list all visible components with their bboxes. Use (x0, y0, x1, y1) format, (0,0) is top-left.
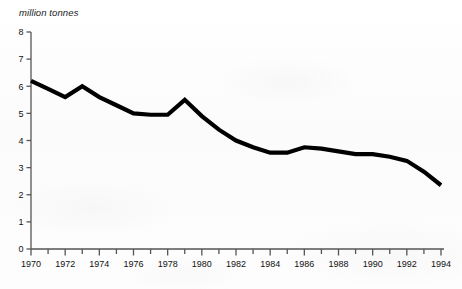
x-tick-label: 1988 (328, 259, 348, 269)
series-line (31, 81, 441, 185)
x-tick-label: 1990 (363, 259, 383, 269)
chart-container: million tonnes 012345678 197019721974197… (0, 0, 462, 289)
y-tick-label: 6 (18, 82, 23, 92)
y-tick-label: 4 (18, 136, 23, 146)
data-series-line (31, 81, 441, 185)
y-tick-label: 3 (18, 163, 23, 173)
chart-plot-area: 012345678 197019721974197619781980198219… (0, 0, 462, 289)
y-tick-label: 7 (18, 54, 23, 64)
y-tick-label: 8 (18, 27, 23, 37)
x-tick-label: 1980 (192, 259, 212, 269)
x-tick-label: 1982 (226, 259, 246, 269)
x-tick-label: 1976 (123, 259, 143, 269)
y-tick-label: 1 (18, 217, 23, 227)
x-tick-label: 1992 (397, 259, 417, 269)
x-tick-label: 1994 (431, 259, 451, 269)
x-tick-label: 1986 (294, 259, 314, 269)
y-axis: 012345678 (18, 27, 31, 254)
x-tick-label: 1972 (55, 259, 75, 269)
y-tick-label: 0 (18, 244, 23, 254)
x-tick-label: 1984 (260, 259, 280, 269)
y-tick-label: 5 (18, 109, 23, 119)
x-tick-label: 1978 (158, 259, 178, 269)
y-tick-label: 2 (18, 190, 23, 200)
x-tick-label: 1970 (21, 259, 41, 269)
x-axis: 1970197219741976197819801982198419861988… (21, 249, 451, 269)
x-tick-label: 1974 (89, 259, 109, 269)
